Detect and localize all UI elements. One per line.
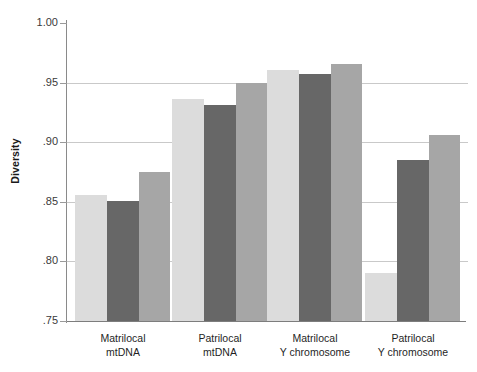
x-axis-label-4: PatrilocalY chromosome [353, 331, 473, 359]
y-tick-label: .90 [12, 136, 58, 147]
y-tick-mark [60, 83, 67, 84]
y-tick-label: .85 [12, 196, 58, 207]
plot-area [67, 23, 466, 321]
bar [204, 105, 236, 321]
y-tick-mark [60, 261, 67, 262]
y-tick-mark [60, 321, 67, 322]
bar [107, 201, 139, 321]
bar [299, 74, 331, 321]
bar [139, 172, 170, 321]
y-tick-label: .80 [12, 255, 58, 266]
y-tick-label: 1.00 [12, 17, 58, 28]
bar [172, 99, 204, 321]
bar [267, 70, 299, 322]
y-tick-label: .75 [12, 315, 58, 326]
bar [397, 160, 429, 321]
y-tick-mark [60, 23, 67, 24]
bar [365, 273, 397, 321]
y-tick-mark [60, 142, 67, 143]
y-tick-mark [60, 202, 67, 203]
bar-chart: Diversity 1.00.95.90.85.80.75 Matrilocal… [0, 0, 477, 372]
y-axis-title: Diversity [9, 116, 21, 206]
bar [236, 83, 267, 321]
bar [75, 195, 107, 321]
bar [429, 135, 460, 321]
x-axis-line [66, 321, 466, 322]
x-axis-label-line2: Y chromosome [353, 345, 473, 359]
x-axis-label-line1: Patrilocal [353, 331, 473, 345]
y-tick-label: .95 [12, 77, 58, 88]
bar [331, 64, 362, 321]
